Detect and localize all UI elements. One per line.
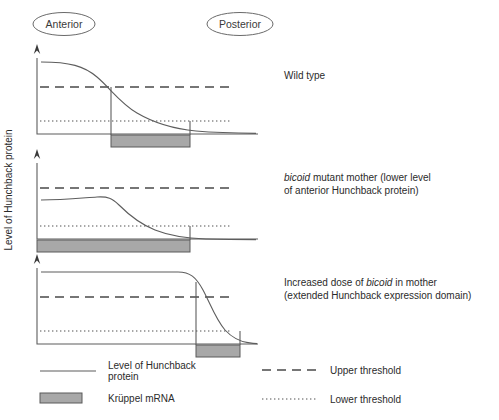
panel3-y-arrow-icon xyxy=(34,254,40,264)
legend: Level of Hunchback protein Krüppel mRNA … xyxy=(40,360,401,405)
panel3-annotation-italic: bicoid xyxy=(366,277,393,288)
panel1-y-arrow-icon xyxy=(34,44,40,54)
posterior-marker: Posterior xyxy=(207,13,273,36)
panel1-hunchback-curve xyxy=(41,62,256,133)
anterior-label: Anterior xyxy=(46,18,83,30)
panel3-annotation-line1: Increased dose of bicoid in mother xyxy=(284,277,438,288)
legend-upper-threshold-label: Upper threshold xyxy=(330,365,401,376)
panel-bicoid-mutant: bicoid mutant mother (lower level of ant… xyxy=(34,149,431,252)
panel2-annotation-italic: bicoid xyxy=(284,172,311,183)
legend-kruppel-italic: Krüppel xyxy=(108,393,142,404)
panel2-y-arrow-icon xyxy=(34,149,40,159)
panel3-hunchback-curve xyxy=(41,272,257,344)
panel2-hunchback-curve xyxy=(41,197,256,240)
panel2-kruppel-mrna-bar xyxy=(37,240,190,252)
legend-hunchback-label-line2: protein xyxy=(108,371,139,382)
panel-increased-bicoid: Increased dose of bicoid in mother (exte… xyxy=(34,254,472,357)
panel2-axes xyxy=(37,163,258,239)
panel2-annotation-line1: bicoid mutant mother (lower level xyxy=(284,172,431,183)
y-axis-title: Level of Hunchback protein xyxy=(3,129,14,250)
panel3-annotation-pre: Increased dose of xyxy=(284,277,366,288)
panel3-kruppel-mrna-bar xyxy=(196,345,240,357)
posterior-label: Posterior xyxy=(219,18,262,30)
panel3-axes xyxy=(37,268,258,344)
legend-kruppel-label: Krüppel mRNA xyxy=(108,393,175,404)
legend-kruppel-rest: mRNA xyxy=(142,393,175,404)
figure-svg: Anterior Posterior Level of Hunchback pr… xyxy=(0,0,499,420)
panel3-annotation-line2: (extended Hunchback expression domain) xyxy=(284,290,471,301)
panel-wild-type: Wild type xyxy=(34,44,326,147)
panel2-annotation-rest: mutant mother (lower level xyxy=(310,172,431,183)
panel1-axes xyxy=(37,58,258,134)
panel3-annotation-rest: in mother xyxy=(392,277,437,288)
legend-hunchback-label-line1: Level of Hunchback xyxy=(108,360,197,371)
figure-root: Anterior Posterior Level of Hunchback pr… xyxy=(0,0,499,420)
anterior-marker: Anterior xyxy=(33,13,95,36)
legend-kruppel-swatch xyxy=(40,393,82,403)
legend-lower-threshold-label: Lower threshold xyxy=(330,394,401,405)
panel1-annotation: Wild type xyxy=(284,70,326,81)
panel1-kruppel-mrna-bar xyxy=(111,135,190,147)
panel2-annotation-line2: of anterior Hunchback protein) xyxy=(284,185,419,196)
